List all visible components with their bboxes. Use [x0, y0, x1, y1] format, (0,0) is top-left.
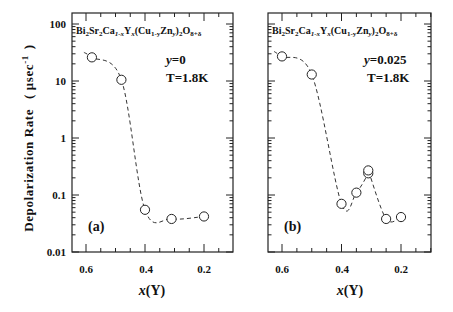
- data-point: [364, 166, 373, 175]
- svg-text:0.4: 0.4: [139, 263, 153, 275]
- data-point: [396, 212, 405, 221]
- temperature-label: T=1.8K: [166, 70, 209, 85]
- panel-a: Bi2Sr2Ca1-xYx(Cu1-yZny)2O8+δ y=0 T=1.8K …: [72, 13, 233, 299]
- panel-tag: (b): [284, 219, 301, 235]
- panel-tag: (a): [88, 219, 105, 235]
- data-point: [277, 52, 286, 61]
- svg-text:Depolarization Rate ( μs: Depolarization Rate ( μsec-1): [20, 44, 36, 232]
- data-point: [307, 70, 316, 79]
- svg-text:10: 10: [55, 75, 67, 87]
- svg-text:0.6: 0.6: [79, 263, 93, 275]
- svg-text:0.01: 0.01: [47, 246, 66, 258]
- data-point: [167, 214, 176, 223]
- svg-text:0.4: 0.4: [335, 263, 349, 275]
- figure: Depolarization Rate ( μsec-1) 100 10 1 0…: [0, 0, 453, 312]
- svg-text:0.2: 0.2: [197, 263, 211, 275]
- x-axis-label: x(Y): [336, 283, 364, 299]
- data-point: [87, 53, 96, 62]
- temperature-label: T=1.8K: [367, 70, 410, 85]
- formula-annotation: Bi2Sr2Ca1-xYx(Cu1-yZny)2O8+δ: [76, 25, 202, 38]
- y-tick-labels: 100 10 1 0.1 0.01: [47, 18, 67, 258]
- svg-text:100: 100: [50, 18, 67, 30]
- x-tick-labels: 0.6 0.4 0.2: [79, 263, 211, 275]
- data-point: [117, 75, 126, 84]
- svg-text:0.1: 0.1: [52, 189, 66, 201]
- svg-text:0.6: 0.6: [275, 263, 289, 275]
- svg-text:1: 1: [61, 132, 67, 144]
- x-axis-label: x(Y): [138, 283, 166, 299]
- x-tick-labels: 0.6 0.4 0.2: [275, 263, 408, 275]
- svg-text:0.2: 0.2: [394, 263, 408, 275]
- data-point: [352, 188, 361, 197]
- y-axis-label: Depolarization Rate ( μsec-1): [20, 44, 36, 232]
- y-param-label: y=0.025: [362, 52, 407, 67]
- y-param-label: y=0: [164, 52, 186, 67]
- formula-annotation: Bi2Sr2Ca1-xYx(Cu1-yZny)2O8+δ: [272, 25, 398, 38]
- plot-frame: [268, 13, 431, 252]
- data-point: [337, 199, 346, 208]
- axis-ticks: [268, 13, 431, 252]
- panel-b: Bi2Sr2Ca1-xYx(Cu1-yZny)2O8+δ y=0.025 T=1…: [268, 13, 431, 299]
- data-point: [140, 205, 149, 214]
- data-point: [199, 212, 208, 221]
- data-point: [382, 214, 391, 223]
